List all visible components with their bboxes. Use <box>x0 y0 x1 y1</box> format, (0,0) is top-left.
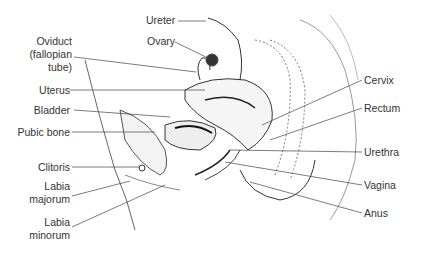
label-pubic-bone: Pubic bone <box>6 126 70 139</box>
label-cervix: Cervix <box>364 74 394 87</box>
label-ovary: Ovary <box>147 35 175 48</box>
label-vagina: Vagina <box>364 179 396 192</box>
label-uterus: Uterus <box>10 84 70 97</box>
label-labia-majorum: Labia majorum <box>10 180 70 206</box>
label-clitoris: Clitoris <box>10 161 70 174</box>
label-labia-minorum: Labia minorum <box>10 216 70 242</box>
label-anus: Anus <box>364 207 388 220</box>
label-urethra: Urethra <box>364 146 399 159</box>
label-bladder: Bladder <box>10 104 70 117</box>
label-rectum: Rectum <box>364 102 400 115</box>
label-ureter: Ureter <box>146 14 175 27</box>
anatomy-diagram: Ureter Ovary Oviduct (fallopian tube) Ut… <box>0 0 426 257</box>
label-oviduct: Oviduct (fallopian tube) <box>20 35 72 74</box>
